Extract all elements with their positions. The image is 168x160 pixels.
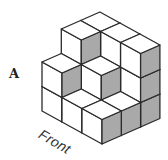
figure-label: A: [9, 66, 19, 81]
cube-stack-drawing: [0, 0, 168, 160]
